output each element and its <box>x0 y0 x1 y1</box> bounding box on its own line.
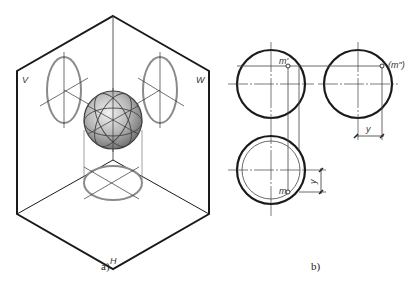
h-plane-ellipse <box>84 166 142 200</box>
plane-label-v: V <box>22 75 29 85</box>
drawing-canvas: V W H a) m' (m") m <box>0 0 414 287</box>
caption-a: a) <box>101 260 110 273</box>
point-m-double-prime <box>380 64 384 68</box>
label-m-prime: m' <box>279 56 288 66</box>
label-m-double-prime: (m") <box>388 60 405 70</box>
figure-b-orthographic: m' (m") m y y b) <box>228 42 405 273</box>
plane-label-w: W <box>196 75 206 85</box>
caption-b: b) <box>311 260 321 273</box>
plane-label-h: H <box>110 256 117 266</box>
dim-y-bottom-label: y <box>308 179 318 185</box>
label-m: m <box>279 186 287 196</box>
point-m <box>286 190 290 194</box>
figure-a-isometric: V W H a) <box>17 16 209 273</box>
dim-y-right-label: y <box>365 124 371 134</box>
